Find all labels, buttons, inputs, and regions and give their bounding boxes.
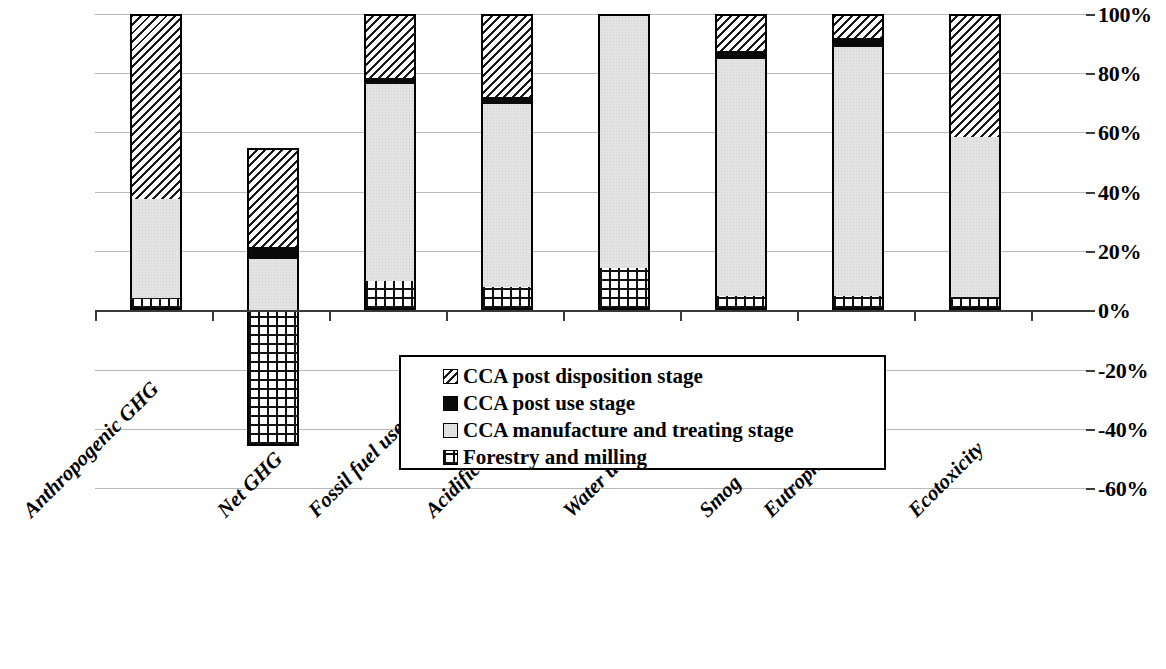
segment-forestry-milling	[130, 298, 182, 310]
segment-cca-post-use	[715, 51, 767, 59]
ytick-label-40: 40%	[1098, 180, 1141, 206]
axis-tick-1	[212, 312, 214, 321]
ytick-label-20: 20%	[1098, 239, 1141, 265]
segment-cca-post-use	[247, 247, 299, 259]
ytick-label-neg60: -60%	[1098, 476, 1148, 502]
ytick-label-neg40: -40%	[1098, 417, 1148, 443]
segment-cca-post-disposition	[715, 14, 767, 51]
legend-item-cca-post-use: CCA post use stage	[443, 390, 884, 417]
segment-cca-manufacture	[715, 59, 767, 296]
axis-stub-start	[95, 312, 97, 321]
ytick-label-0: 0%	[1098, 298, 1130, 324]
axis-tick-4	[563, 312, 565, 321]
axis-tick-6	[797, 312, 799, 321]
legend-item-cca-manufacture: CCA manufacture and treating stage	[443, 417, 884, 444]
legend-item-forestry-milling: Forestry and milling	[443, 444, 884, 471]
legend-label-cca-post-disposition: CCA post disposition stage	[463, 366, 703, 387]
segment-cca-post-use	[481, 97, 533, 104]
segment-cca-post-use	[832, 38, 884, 47]
ytick-label-80: 80%	[1098, 61, 1141, 87]
segment-cca-post-disposition	[247, 148, 299, 247]
legend-swatch-hatch-icon	[443, 369, 458, 384]
legend-label-cca-manufacture: CCA manufacture and treating stage	[463, 420, 794, 441]
gridline-40	[95, 192, 1090, 193]
segment-cca-manufacture	[130, 199, 182, 298]
segment-forestry-milling	[364, 281, 416, 310]
segment-cca-post-disposition	[364, 14, 416, 78]
segment-cca-manufacture	[247, 259, 299, 310]
segment-cca-manufacture	[364, 84, 416, 281]
segment-forestry-milling	[481, 287, 533, 310]
segment-cca-post-disposition	[130, 14, 182, 199]
segment-cca-post-disposition	[949, 14, 1001, 137]
ytick-label-100: 100%	[1098, 2, 1152, 28]
ytick-mark-60	[1086, 132, 1095, 134]
segment-forestry-milling	[247, 311, 299, 446]
segment-forestry-milling	[832, 296, 884, 310]
segment-forestry-milling	[598, 268, 650, 310]
legend-item-cca-post-disposition: CCA post disposition stage	[443, 363, 884, 390]
axis-tick-7	[914, 312, 916, 321]
legend-label-cca-post-use: CCA post use stage	[463, 393, 635, 414]
ytick-mark-40	[1086, 192, 1095, 194]
axis-tick-5	[680, 312, 682, 321]
axis-tick-8	[1031, 312, 1033, 321]
gridline-20	[95, 251, 1090, 252]
ytick-mark-neg60	[1086, 488, 1095, 490]
legend-swatch-grid-icon	[443, 450, 458, 465]
axis-tick-2	[329, 312, 331, 321]
ytick-mark-neg40	[1086, 429, 1095, 431]
axis-tick-3	[446, 312, 448, 321]
ytick-label-neg20: -20%	[1098, 358, 1148, 384]
legend: CCA post disposition stage CCA post use …	[399, 355, 886, 470]
segment-cca-manufacture	[481, 104, 533, 287]
ytick-mark-neg20	[1086, 370, 1095, 372]
ytick-mark-80	[1086, 73, 1095, 75]
zero-axis-line	[95, 310, 1090, 312]
gridline-60	[95, 132, 1090, 133]
segment-cca-manufacture	[598, 14, 650, 268]
stacked-bar-chart: 100% 80% 60% 40% 20% 0% -20% -40% -60% A…	[0, 0, 1166, 669]
segment-cca-post-disposition	[832, 14, 884, 38]
segment-cca-manufacture	[949, 137, 1001, 297]
segment-forestry-milling	[715, 296, 767, 310]
gridline-80	[95, 73, 1090, 74]
ytick-mark-100	[1086, 14, 1095, 16]
legend-swatch-grey-icon	[443, 423, 458, 438]
segment-forestry-milling	[949, 297, 1001, 310]
segment-cca-manufacture	[832, 47, 884, 296]
gridline-100	[95, 14, 1090, 15]
legend-label-forestry-milling: Forestry and milling	[463, 447, 647, 468]
ytick-mark-0	[1086, 310, 1095, 312]
segment-cca-post-disposition	[481, 14, 533, 97]
ytick-mark-20	[1086, 251, 1095, 253]
legend-swatch-black-icon	[443, 396, 458, 411]
ytick-label-60: 60%	[1098, 120, 1141, 146]
